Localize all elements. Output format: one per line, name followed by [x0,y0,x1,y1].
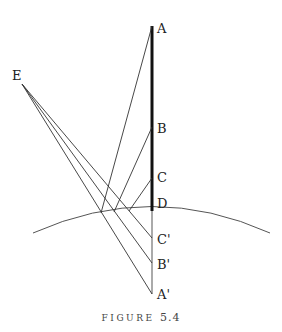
sightline-E-to-A-prime [22,84,152,294]
sightline-E-to-B-prime [22,84,152,263]
label-B-prime: B' [157,257,170,272]
label-E: E [12,68,22,83]
label-C-prime: C' [157,232,171,247]
label-A: A [156,21,167,36]
reflection-diagram: A B C D E C' B' A' [0,0,282,332]
caption-number: 5.4 [160,311,181,324]
label-D: D [157,196,167,211]
figure-caption: FIGURE 5.4 [0,311,282,324]
label-C: C [157,170,167,185]
caption-word: FIGURE [102,313,155,323]
label-B: B [157,121,167,136]
label-A-prime: A' [156,287,170,302]
